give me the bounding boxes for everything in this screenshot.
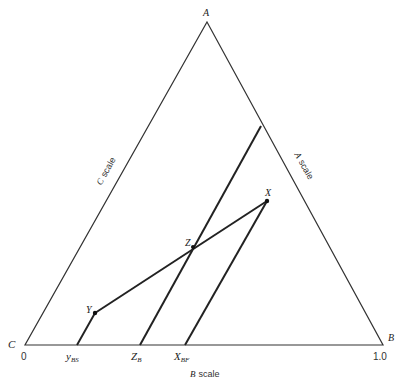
c-scale-label: Cscale bbox=[94, 156, 117, 187]
axis-start-label: 0 bbox=[21, 351, 27, 362]
vertex-b-label: B bbox=[388, 332, 394, 343]
vertex-c-label: C bbox=[8, 338, 16, 350]
point-z bbox=[191, 245, 195, 249]
ternary-triangle bbox=[25, 22, 383, 345]
point-x-label: X bbox=[264, 187, 272, 198]
y-to-x-line bbox=[95, 201, 267, 313]
tick-xbf-label: XBF bbox=[173, 350, 190, 364]
b-scale-label: Bscale bbox=[190, 369, 220, 379]
point-y bbox=[93, 311, 97, 315]
x-to-xbf-line bbox=[185, 201, 267, 345]
axis-end-label: 1.0 bbox=[373, 351, 387, 362]
y-to-ybs-line bbox=[77, 313, 95, 345]
point-y-label: Y bbox=[86, 304, 93, 315]
vertex-a-label: A bbox=[202, 7, 210, 18]
a-scale-label-group: Ascale bbox=[292, 150, 316, 182]
tick-ybs-label: yBS bbox=[65, 350, 79, 364]
ternary-diagram: A B C X Y Z 0 1.0 yBS ZB XBF Bscale Csca… bbox=[0, 0, 409, 380]
point-x bbox=[265, 199, 269, 203]
c-scale-label-group: Cscale bbox=[94, 156, 117, 187]
z-tie-line bbox=[140, 126, 261, 345]
point-z-label: Z bbox=[185, 237, 191, 248]
tick-zb-label: ZB bbox=[131, 350, 142, 364]
a-scale-label: Ascale bbox=[292, 150, 316, 182]
